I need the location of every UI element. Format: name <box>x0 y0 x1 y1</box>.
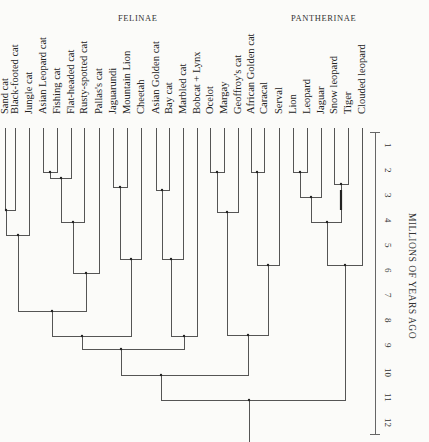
axis-tick-label: 3 <box>383 193 393 198</box>
tree-branches <box>0 0 429 442</box>
phylogeny-diagram: FELINAE PANTHERINAE Sand catBlack-footed… <box>0 0 429 442</box>
axis-tick-label: 7 <box>383 293 393 298</box>
axis-tick-label: 12 <box>383 418 393 427</box>
axis-tick-label: 6 <box>383 268 393 273</box>
axis-tick-label: 8 <box>383 318 393 323</box>
axis-tick-label: 4 <box>383 218 393 223</box>
axis-tick-label: 11 <box>383 393 393 402</box>
axis-tick-label: 2 <box>383 168 393 173</box>
axis-tick-label: 10 <box>383 368 393 377</box>
axis-tick-label: 9 <box>383 343 393 348</box>
axis-title: MILLIONS OF YEARS AGO <box>407 213 417 339</box>
axis-tick-label: 5 <box>383 243 393 248</box>
axis-tick-label: 1 <box>383 143 393 148</box>
